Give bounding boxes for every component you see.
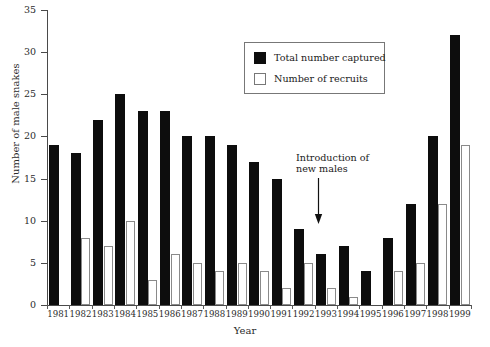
bar-recruits	[461, 145, 470, 305]
annotation-introduction-of-new-males: Introduction of new males	[296, 152, 406, 174]
x-tick-label: 1996	[381, 310, 405, 319]
bar-recruits	[81, 238, 90, 305]
x-tick-label: 1981	[46, 310, 70, 319]
bar-total-captured	[294, 229, 304, 305]
x-tick-label: 1997	[403, 310, 427, 319]
x-tick-label: 1985	[135, 310, 159, 319]
bar-recruits	[148, 280, 157, 305]
x-tick-label: 1992	[292, 310, 316, 319]
x-tick-label: 1984	[113, 310, 137, 319]
x-tick-label: 1988	[202, 310, 226, 319]
bar-total-captured	[182, 136, 192, 305]
y-tick-label: 10	[2, 216, 36, 226]
y-tick-label: 0	[2, 300, 36, 310]
legend-label-recruits: Number of recruits	[274, 72, 368, 85]
x-tick-label: 1993	[314, 310, 338, 319]
bar-recruits	[193, 263, 202, 305]
bar-total-captured	[406, 204, 416, 305]
x-tick-label: 1999	[448, 310, 472, 319]
bar-total-captured	[361, 271, 371, 305]
bar-total-captured	[450, 35, 460, 305]
bar-total-captured	[227, 145, 237, 305]
bar-recruits	[126, 221, 135, 305]
bar-recruits	[394, 271, 403, 305]
bar-total-captured	[428, 136, 438, 305]
bar-recruits	[171, 254, 180, 305]
bar-recruits	[438, 204, 447, 305]
x-axis-title: Year	[0, 325, 490, 336]
bar-total-captured	[383, 238, 393, 305]
legend-swatch-filled-square-icon	[254, 52, 266, 64]
annotation-text-line2: new males	[296, 163, 406, 174]
bar-total-captured	[316, 254, 326, 305]
bar-chart: 05101520253035 1981198219831984198519861…	[0, 0, 490, 347]
x-tick-label: 1991	[269, 310, 293, 319]
bar-total-captured	[160, 111, 170, 305]
x-axis-line	[47, 305, 471, 306]
bar-total-captured	[339, 246, 349, 305]
bar-total-captured	[272, 179, 282, 305]
bar-total-captured	[71, 153, 81, 305]
x-tick-label: 1986	[158, 310, 182, 319]
legend-label-total-captured: Total number captured	[274, 51, 386, 64]
x-tick-label: 1998	[426, 310, 450, 319]
bar-recruits	[349, 297, 358, 305]
bar-recruits	[416, 263, 425, 305]
annotation-text-line1: Introduction of	[296, 152, 406, 163]
annotation-text: Introduction of new males	[296, 152, 406, 174]
down-arrow-icon	[314, 178, 323, 224]
x-tick-label: 1987	[180, 310, 204, 319]
bar-recruits	[327, 288, 336, 305]
y-tick-label: 35	[2, 5, 36, 15]
x-tick-label: 1995	[359, 310, 383, 319]
bar-recruits	[238, 263, 247, 305]
bar-total-captured	[138, 111, 148, 305]
x-tick-label: 1983	[91, 310, 115, 319]
chart-legend: Total number captured Number of recruits	[244, 42, 385, 94]
bar-total-captured	[205, 136, 215, 305]
x-tick-label: 1990	[247, 310, 271, 319]
bar-recruits	[260, 271, 269, 305]
bar-total-captured	[93, 120, 103, 305]
x-tick-mark	[471, 305, 472, 309]
x-tick-label: 1989	[225, 310, 249, 319]
bar-total-captured	[115, 94, 125, 305]
x-tick-label: 1982	[68, 310, 92, 319]
legend-swatch-outlined-square-icon	[254, 73, 266, 85]
x-tick-label: 1994	[336, 310, 360, 319]
bar-total-captured	[49, 145, 59, 305]
bar-recruits	[282, 288, 291, 305]
y-axis-title: Number of male snakes	[10, 49, 21, 199]
bar-recruits	[104, 246, 113, 305]
bar-total-captured	[249, 162, 259, 305]
bar-recruits	[215, 271, 224, 305]
y-tick-label: 5	[2, 258, 36, 268]
bar-recruits	[304, 263, 313, 305]
